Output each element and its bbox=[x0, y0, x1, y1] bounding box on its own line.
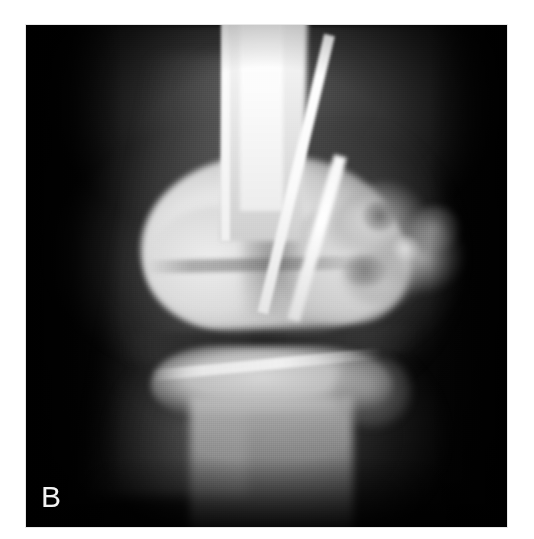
panel-label: B bbox=[41, 482, 62, 512]
femoral-medullary-canal bbox=[240, 25, 283, 211]
lesion-peripheral-density bbox=[411, 206, 459, 251]
femoral-cortex-medial bbox=[221, 25, 231, 241]
tibial-shaft bbox=[190, 396, 354, 527]
lesion-lucency-upper bbox=[363, 201, 397, 231]
fibular-head bbox=[334, 356, 411, 426]
lesion-lucency-lower bbox=[343, 256, 386, 286]
radiograph-image: B bbox=[26, 25, 507, 527]
figure-root: B bbox=[0, 0, 534, 539]
